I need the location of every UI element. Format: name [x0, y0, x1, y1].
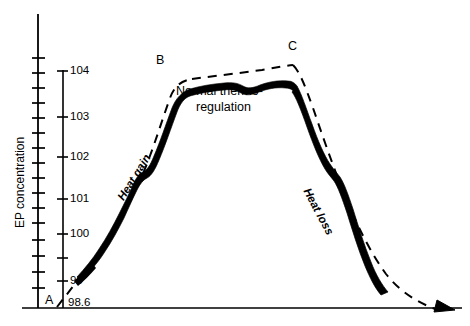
temperature-tick-label-102: 102 [70, 150, 89, 162]
point-label-b: B [156, 54, 164, 67]
plateau-label-line-1: Normal thermo- [176, 85, 263, 98]
point-label-c: C [288, 40, 297, 53]
thermoregulation-figure: EP concentration 104 103 102 101 100 99 … [0, 0, 470, 326]
ep-curve-falling-dashed [293, 65, 438, 310]
ep-curve-arrowhead [434, 300, 455, 312]
plateau-label-line-2: regulation [196, 101, 251, 114]
ep-curve-plateau-dashed [192, 65, 293, 79]
y-axis-title-ep-concentration: EP concentration [14, 137, 27, 228]
point-label-a: A [45, 294, 53, 307]
temperature-baseline-label-98-6: 98.6 [68, 296, 90, 308]
temperature-tick-label-104: 104 [70, 64, 89, 76]
temperature-tick-label-100: 100 [70, 227, 89, 239]
temperature-tick-label-99: 99 [70, 274, 83, 286]
temperature-tick-label-101: 101 [70, 192, 89, 204]
temperature-tick-label-103: 103 [70, 110, 89, 122]
